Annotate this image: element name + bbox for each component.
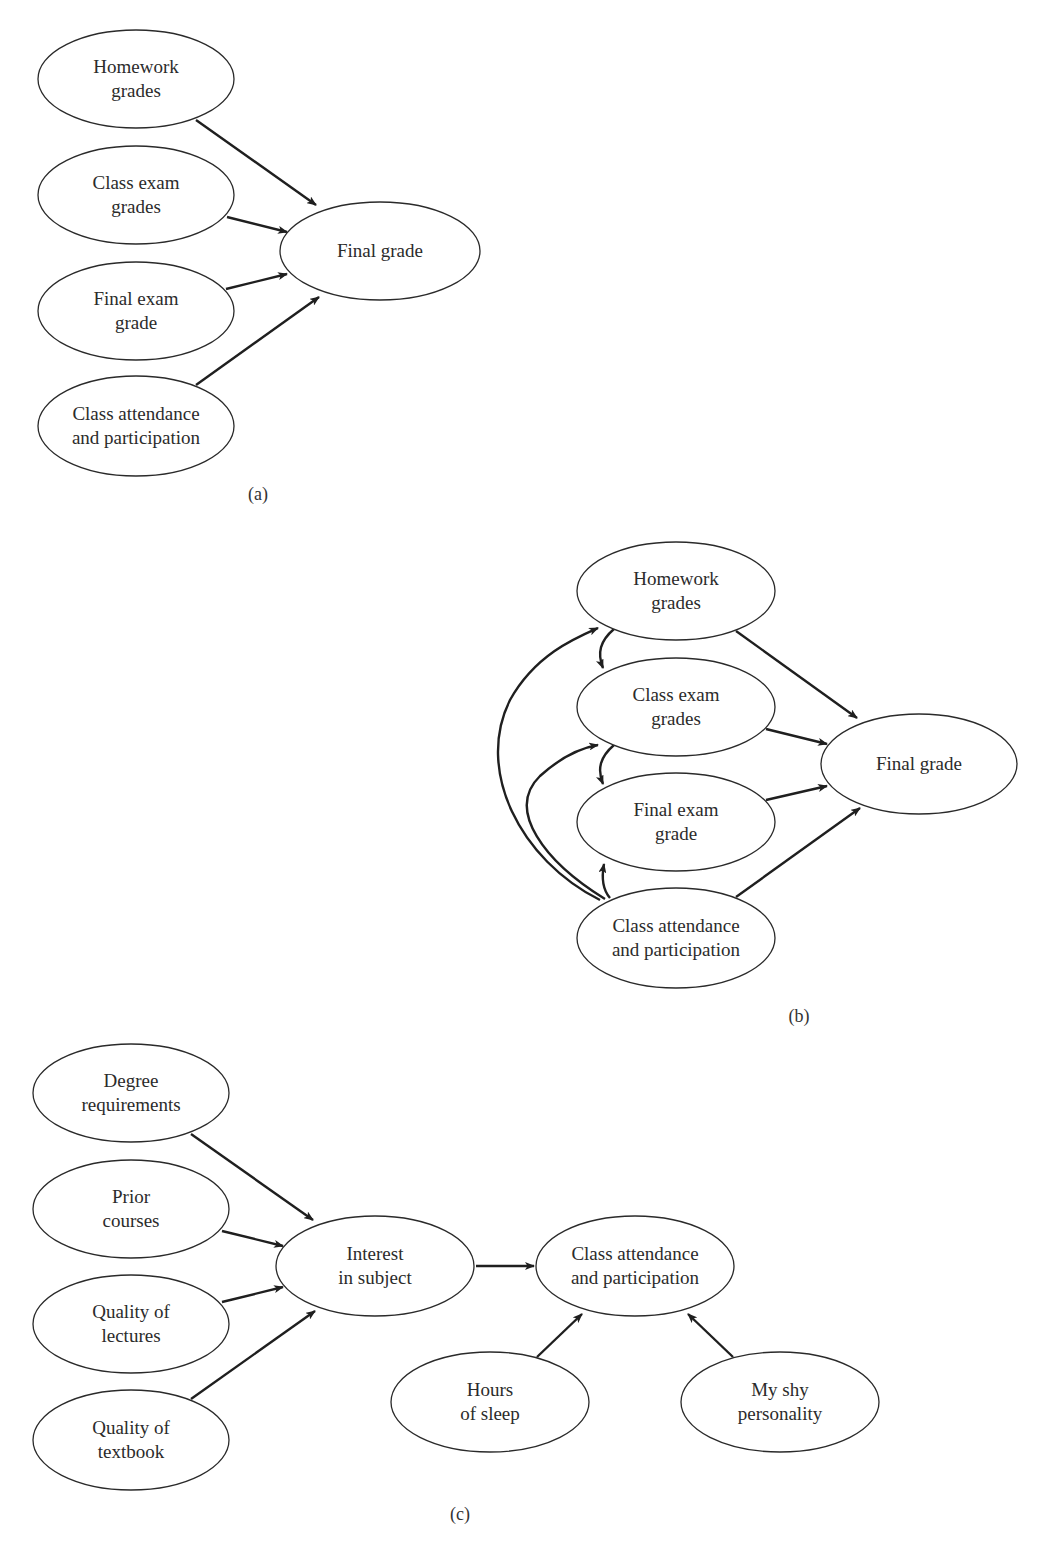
causal-diagram: HomeworkgradesClass examgradesFinal exam…	[0, 0, 1049, 1545]
node-label: in subject	[338, 1267, 412, 1288]
node-ellipse	[38, 30, 234, 128]
arrow-sleep-to-attendance	[537, 1314, 582, 1357]
node-label: and participation	[571, 1267, 700, 1288]
node-label: grades	[651, 592, 701, 613]
node-label: Homework	[633, 568, 719, 589]
node-label: Final exam	[94, 288, 179, 309]
node-label: grades	[111, 196, 161, 217]
node-label: Final grade	[337, 240, 423, 261]
panel-caption: (b)	[789, 1006, 810, 1027]
node-label: grades	[651, 708, 701, 729]
node-label: grades	[111, 80, 161, 101]
node-degree: Degreerequirements	[33, 1044, 229, 1142]
node-ellipse	[536, 1216, 734, 1316]
node-homework: Homeworkgrades	[577, 542, 775, 640]
node-final_exam: Final examgrade	[577, 773, 775, 871]
node-final_grade: Final grade	[821, 714, 1017, 814]
node-shy: My shypersonality	[681, 1352, 879, 1452]
node-label: Homework	[93, 56, 179, 77]
arrow-attendance-to-homework	[498, 628, 600, 900]
node-label: Hours	[467, 1379, 513, 1400]
node-attendance: Class attendanceand participation	[536, 1216, 734, 1316]
node-label: requirements	[81, 1094, 180, 1115]
node-label: of sleep	[460, 1403, 520, 1424]
node-ellipse	[33, 1044, 229, 1142]
node-ellipse	[38, 262, 234, 360]
node-ellipse	[38, 146, 234, 244]
panel-caption: (a)	[248, 484, 268, 505]
node-ellipse	[577, 888, 775, 988]
node-prior: Priorcourses	[33, 1160, 229, 1258]
node-textbook: Quality oftextbook	[33, 1390, 229, 1490]
node-sleep: Hoursof sleep	[391, 1352, 589, 1452]
node-label: Final exam	[634, 799, 719, 820]
node-label: Class attendance	[72, 403, 199, 424]
node-label: Degree	[104, 1070, 159, 1091]
node-ellipse	[391, 1352, 589, 1452]
node-label: and participation	[72, 427, 201, 448]
arrow-lectures-to-interest	[222, 1287, 283, 1302]
panel-a: HomeworkgradesClass examgradesFinal exam…	[38, 30, 480, 505]
node-label: Class attendance	[571, 1243, 698, 1264]
node-label: Interest	[347, 1243, 405, 1264]
node-label: grade	[655, 823, 697, 844]
node-ellipse	[33, 1390, 229, 1490]
node-label: courses	[103, 1210, 160, 1231]
panel-caption: (c)	[450, 1504, 470, 1525]
arrow-prior-to-interest	[222, 1231, 283, 1246]
node-ellipse	[681, 1352, 879, 1452]
node-label: and participation	[612, 939, 741, 960]
node-final_grade: Final grade	[280, 202, 480, 300]
arrow-homework-to-class_exam	[600, 629, 614, 668]
node-label: Quality of	[92, 1301, 170, 1322]
arrow-class_exam-to-final_exam	[600, 745, 614, 784]
arrow-final_exam-to-final_grade	[766, 786, 827, 800]
node-ellipse	[577, 658, 775, 756]
arrow-attendance-to-final_exam	[603, 864, 610, 898]
node-class_exam: Class examgrades	[38, 146, 234, 244]
arrow-final_exam-to-final_grade	[226, 274, 287, 289]
node-ellipse	[38, 376, 234, 476]
node-label: grade	[115, 312, 157, 333]
node-ellipse	[577, 542, 775, 640]
arrow-class_exam-to-final_grade	[766, 729, 827, 744]
node-label: Class attendance	[612, 915, 739, 936]
arrow-shy-to-attendance	[688, 1314, 733, 1357]
node-ellipse	[33, 1160, 229, 1258]
panels-layer: HomeworkgradesClass examgradesFinal exam…	[33, 30, 1017, 1525]
node-label: lectures	[101, 1325, 160, 1346]
node-ellipse	[33, 1275, 229, 1373]
node-label: My shy	[751, 1379, 809, 1400]
node-label: Prior	[112, 1186, 151, 1207]
panel-b: HomeworkgradesClass examgradesFinal exam…	[498, 542, 1017, 1027]
node-label: Final grade	[876, 753, 962, 774]
node-label: Class exam	[632, 684, 719, 705]
node-label: Class exam	[92, 172, 179, 193]
node-label: textbook	[98, 1441, 165, 1462]
node-class_exam: Class examgrades	[577, 658, 775, 756]
node-lectures: Quality oflectures	[33, 1275, 229, 1373]
arrow-class_exam-to-final_grade	[227, 217, 287, 232]
node-attendance: Class attendanceand participation	[38, 376, 234, 476]
node-ellipse	[577, 773, 775, 871]
node-interest: Interestin subject	[276, 1216, 474, 1316]
node-homework: Homeworkgrades	[38, 30, 234, 128]
node-ellipse	[276, 1216, 474, 1316]
node-final_exam: Final examgrade	[38, 262, 234, 360]
node-label: Quality of	[92, 1417, 170, 1438]
node-label: personality	[738, 1403, 823, 1424]
panel-c: DegreerequirementsPriorcoursesQuality of…	[33, 1044, 879, 1525]
node-attendance: Class attendanceand participation	[577, 888, 775, 988]
